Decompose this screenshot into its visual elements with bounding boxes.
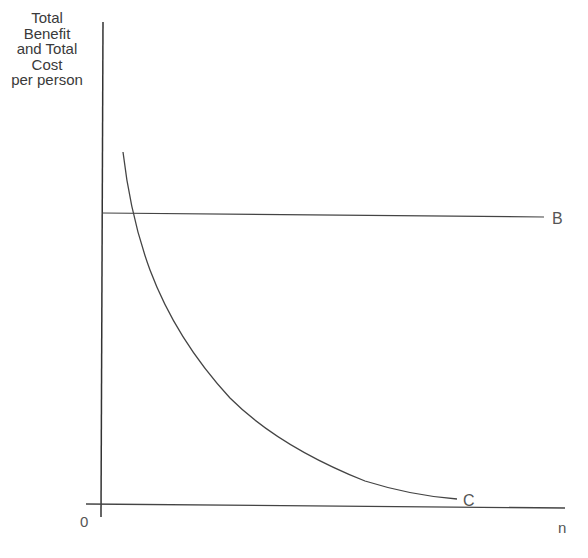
x-axis (86, 504, 565, 508)
y-axis (101, 22, 103, 517)
cost-curve-c (123, 152, 457, 499)
origin-label: 0 (80, 513, 88, 530)
label-b: B (552, 210, 563, 227)
chart-canvas: B C n 0 (0, 0, 588, 558)
label-c: C (463, 492, 475, 509)
x-axis-label-n: n (558, 519, 566, 536)
benefit-line-b (102, 213, 544, 217)
